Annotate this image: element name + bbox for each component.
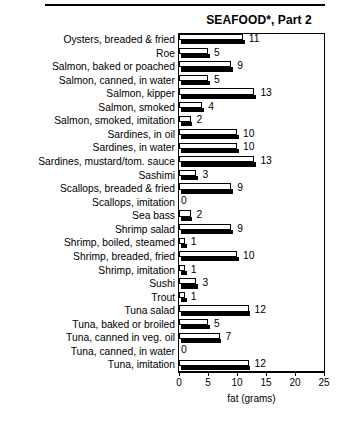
- bar-category-label: Scallops, imitation: [92, 196, 175, 209]
- x-tick-mark: [295, 372, 296, 376]
- bar-category-label: Shrimp, breaded, fried: [73, 250, 175, 263]
- bar: [179, 209, 191, 223]
- bar-row: Salmon, canned, in water5: [0, 74, 341, 88]
- bar-rows-container: Oysters, breaded & fried11Roe5Salmon, ba…: [0, 33, 341, 372]
- bar-shadow: [181, 217, 193, 221]
- bar-value-label: 9: [237, 60, 243, 73]
- bar-value-label: 0: [181, 344, 187, 357]
- bar-shadow: [181, 325, 210, 329]
- bar-shadow: [181, 149, 239, 153]
- bar-category-label: Roe: [156, 47, 175, 60]
- bar: [179, 223, 231, 237]
- bar: [179, 87, 254, 101]
- bar-value-label: 13: [260, 155, 271, 168]
- bar: [179, 304, 249, 318]
- bar-shadow: [181, 339, 222, 343]
- bar-row: Tuna, canned in veg. oil7: [0, 331, 341, 345]
- bar: [179, 141, 237, 155]
- bar-shadow: [181, 95, 256, 99]
- bar-value-label: 5: [214, 318, 220, 331]
- bar: [179, 60, 231, 74]
- bar-value-label: 9: [237, 223, 243, 236]
- bar-shadow: [181, 40, 245, 44]
- bar-row: Salmon, smoked4: [0, 101, 341, 115]
- bar-row: Shrimp, breaded, fried10: [0, 250, 341, 264]
- bar-value-label: 10: [243, 141, 254, 154]
- bar-value-label: 1: [191, 291, 197, 304]
- x-tick-label: 0: [167, 377, 191, 388]
- x-axis-line: [178, 372, 325, 373]
- bar-category-label: Salmon, canned, in water: [59, 74, 175, 87]
- bar-category-label: Shrimp salad: [115, 223, 175, 236]
- bar-row: Trout1: [0, 291, 341, 305]
- bar-row: Sushi3: [0, 277, 341, 291]
- bar-value-label: 9: [237, 182, 243, 195]
- bar-shadow: [181, 54, 210, 58]
- bar-row: Scallops, breaded & fried9: [0, 182, 341, 196]
- bar: [179, 318, 208, 332]
- bar-row: Sea bass2: [0, 209, 341, 223]
- bar: [179, 250, 237, 264]
- bar-value-label: 13: [260, 87, 271, 100]
- bar-category-label: Shrimp, imitation: [98, 264, 175, 277]
- bar-value-label: 3: [202, 277, 208, 290]
- bar-category-label: Scallops, breaded & fried: [60, 182, 175, 195]
- x-tick-mark: [324, 372, 325, 376]
- bar-row: Salmon, baked or poached9: [0, 60, 341, 74]
- bar-category-label: Salmon, smoked, imitation: [54, 114, 175, 127]
- bar-value-label: 0: [181, 195, 187, 208]
- bar-category-label: Sea bass: [132, 209, 175, 222]
- bar-category-label: Trout: [151, 291, 175, 304]
- bar: [179, 74, 208, 88]
- bar: [179, 169, 196, 183]
- bar-shadow: [181, 244, 187, 248]
- header-divider-rule: [45, 4, 325, 6]
- bar-value-label: 3: [202, 169, 208, 182]
- bar-row: Sashimi3: [0, 169, 341, 183]
- x-tick-mark: [179, 372, 180, 376]
- bar-row: Shrimp, boiled, steamed1: [0, 236, 341, 250]
- bar-shadow: [181, 67, 233, 71]
- bar-row: Tuna, imitation12: [0, 358, 341, 372]
- bar-category-label: Salmon, kipper: [106, 87, 175, 100]
- x-tick-mark: [237, 372, 238, 376]
- bar-value-label: 1: [191, 264, 197, 277]
- bar: [179, 236, 185, 250]
- x-tick-label: 20: [283, 377, 307, 388]
- bar-row: Salmon, kipper13: [0, 87, 341, 101]
- bar-value-label: 10: [243, 250, 254, 263]
- bar-category-label: Sardines, mustard/tom. sauce: [38, 155, 175, 168]
- bar-value-label: 5: [214, 47, 220, 60]
- bar-value-label: 7: [226, 331, 232, 344]
- bar-value-label: 12: [255, 304, 266, 317]
- bar: [179, 277, 196, 291]
- bar-row: Oysters, breaded & fried11: [0, 33, 341, 47]
- bar-value-label: 4: [208, 101, 214, 114]
- bar-category-label: Oysters, breaded & fried: [63, 33, 175, 46]
- x-axis-title: fat (grams): [178, 393, 325, 404]
- bar-shadow: [181, 298, 187, 302]
- bar-shadow: [181, 176, 198, 180]
- bar-category-label: Salmon, smoked: [98, 101, 175, 114]
- x-tick-label: 25: [312, 377, 336, 388]
- chart-title: SEAFOOD*, Part 2: [180, 13, 338, 27]
- bar-shadow: [181, 189, 233, 193]
- bar-shadow: [181, 311, 251, 315]
- x-tick-label: 5: [196, 377, 220, 388]
- bar: [179, 291, 185, 305]
- bar: [179, 101, 202, 115]
- bar-value-label: 10: [243, 128, 254, 141]
- bar-value-label: 2: [197, 114, 203, 127]
- bar-value-label: 1: [191, 236, 197, 249]
- bar: [179, 182, 231, 196]
- bar-row: Sardines, in water10: [0, 141, 341, 155]
- bar-shadow: [181, 81, 210, 85]
- bar-category-label: Sardines, in oil: [107, 128, 175, 141]
- bar-row: Shrimp salad9: [0, 223, 341, 237]
- bar-value-label: 5: [214, 74, 220, 87]
- bar-value-label: 11: [249, 33, 260, 46]
- bar-row: Sardines, mustard/tom. sauce13: [0, 155, 341, 169]
- bar-row: Salmon, smoked, imitation2: [0, 114, 341, 128]
- bar-category-label: Sardines, in water: [93, 141, 175, 154]
- x-tick-mark: [208, 372, 209, 376]
